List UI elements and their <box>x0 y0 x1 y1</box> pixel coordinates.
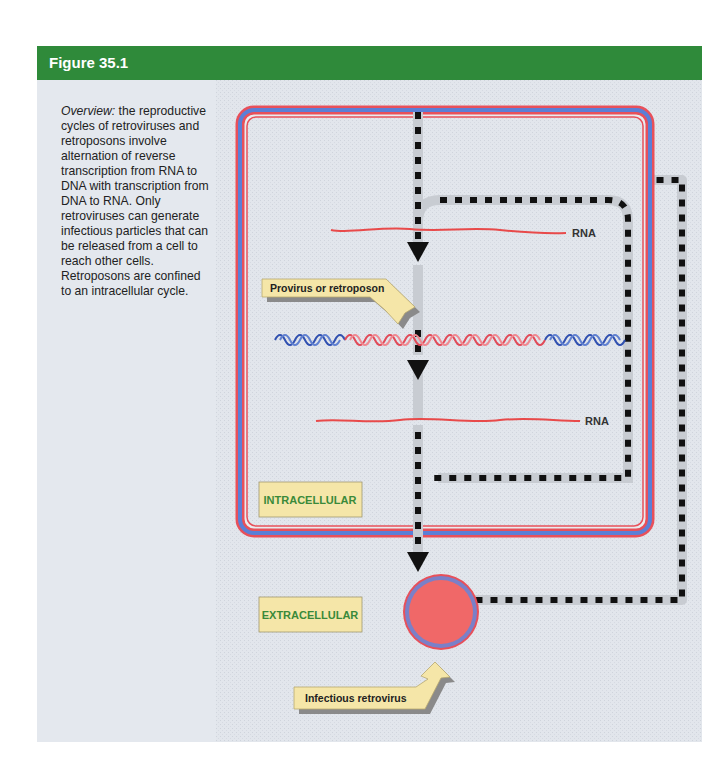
extracellular-label-box: EXTRACELLULAR <box>259 597 362 632</box>
provirus-label: Provirus or retroposon <box>270 282 384 294</box>
caption-lead: Overview: <box>61 104 115 118</box>
figure-title: Figure 35.1 <box>49 54 128 71</box>
retrovirus-label: Infectious retrovirus <box>305 692 407 704</box>
caption-body: the reproductive cycles of retroviruses … <box>61 104 209 298</box>
extracellular-label: EXTRACELLULAR <box>262 609 359 621</box>
figure-caption: Overview: the reproductive cycles of ret… <box>61 104 211 299</box>
figure-header: Figure 35.1 <box>37 46 702 80</box>
rna-label-top: RNA <box>572 227 596 239</box>
intracellular-label: INTRACELLULAR <box>264 494 357 506</box>
retrovirus-particle <box>403 574 479 650</box>
cell-membrane <box>240 110 650 533</box>
retrovirus-cycle-diagram: RNA RNA Provirus or retroposon INTRACELL… <box>216 80 702 742</box>
intracellular-label-box: INTRACELLULAR <box>259 482 362 517</box>
rna-label-bottom: RNA <box>585 415 609 427</box>
